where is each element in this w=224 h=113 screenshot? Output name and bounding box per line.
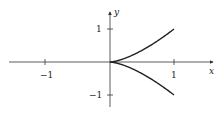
cusp-plot: −1 1 1 −1 x y [0, 0, 224, 113]
y-axis-label: y [113, 7, 120, 17]
x-axis-label: x [209, 66, 214, 76]
y-tick-label-pos1: 1 [96, 24, 102, 34]
upper-branch-curve [110, 29, 174, 62]
lower-branch-curve [110, 62, 174, 95]
x-tick-label-pos1: 1 [171, 70, 177, 80]
y-tick-label-neg1: −1 [89, 90, 102, 100]
x-tick-label-neg1: −1 [40, 70, 53, 80]
